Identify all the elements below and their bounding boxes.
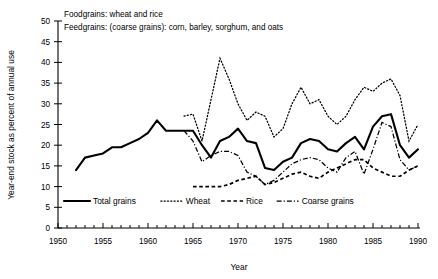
y-tick-label: 15 bbox=[41, 162, 51, 171]
x-tick-label: 1965 bbox=[184, 237, 203, 246]
y-tick-label: 5 bbox=[45, 203, 50, 212]
y-tick-label: 30 bbox=[41, 100, 51, 109]
legend-label: Total grains bbox=[93, 196, 136, 206]
x-axis-title: Year bbox=[231, 262, 248, 272]
legend-label: Rice bbox=[246, 196, 263, 206]
x-tick-label: 1960 bbox=[139, 237, 158, 246]
y-tick-label: 35 bbox=[41, 79, 51, 88]
x-axis: 195019551960196519701975198019851990 Yea… bbox=[49, 223, 428, 272]
chart-legend: Total grainsWheatRiceCoarse grains bbox=[64, 196, 354, 206]
y-tick-label: 10 bbox=[41, 183, 51, 192]
y-tick-label: 40 bbox=[41, 58, 51, 67]
x-tick-label: 1990 bbox=[409, 237, 428, 246]
x-tick-label: 1975 bbox=[274, 237, 293, 246]
y-axis-ticks: 05101520253035404550 bbox=[41, 17, 62, 233]
data-series-group bbox=[76, 58, 418, 186]
y-tick-label: 25 bbox=[41, 121, 51, 130]
x-tick-label: 1970 bbox=[229, 237, 248, 246]
y-tick-label: 45 bbox=[41, 38, 51, 47]
note-feedgrains: Feedgrains: (coarse grains): corn, barle… bbox=[64, 23, 283, 32]
x-tick-label: 1950 bbox=[49, 237, 68, 246]
chart-container: Foodgrains: wheat and rice Feedgrains: (… bbox=[0, 0, 438, 279]
series-line-wheat bbox=[184, 58, 418, 141]
y-tick-label: 20 bbox=[41, 141, 51, 150]
y-axis: 05101520253035404550 Year-end stock as p… bbox=[6, 17, 62, 233]
y-tick-label: 50 bbox=[41, 17, 51, 26]
y-tick-label: 0 bbox=[45, 224, 50, 233]
line-chart: Foodgrains: wheat and rice Feedgrains: (… bbox=[0, 0, 438, 279]
notes-block: Foodgrains: wheat and rice Feedgrains: (… bbox=[64, 10, 283, 32]
x-tick-label: 1985 bbox=[364, 237, 383, 246]
y-axis-title: Year-end stock as percent of annual use bbox=[6, 50, 16, 200]
x-axis-ticks: 195019551960196519701975198019851990 bbox=[49, 223, 428, 246]
x-tick-label: 1980 bbox=[319, 237, 338, 246]
series-line-rice bbox=[193, 160, 418, 187]
note-foodgrains: Foodgrains: wheat and rice bbox=[64, 10, 163, 19]
legend-label: Wheat bbox=[186, 196, 211, 206]
x-tick-label: 1955 bbox=[94, 237, 113, 246]
series-line-coarse-grains bbox=[184, 122, 418, 184]
legend-label: Coarse grains bbox=[302, 196, 354, 206]
